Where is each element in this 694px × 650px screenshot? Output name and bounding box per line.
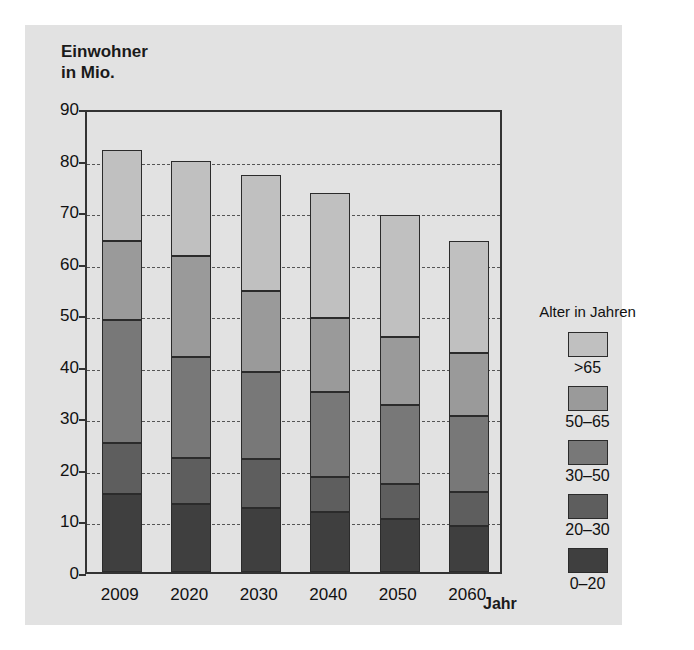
bar-segment-0-20[interactable] xyxy=(449,526,489,572)
bar-segment-0-20[interactable] xyxy=(380,519,420,572)
bar-2009[interactable] xyxy=(102,108,142,572)
legend-item[interactable]: 0–20 xyxy=(530,548,645,593)
y-tick-mark xyxy=(79,213,86,215)
bar-2050[interactable] xyxy=(380,108,420,572)
legend-item[interactable]: 30–50 xyxy=(530,440,645,485)
legend-swatch xyxy=(568,440,608,465)
legend-item[interactable]: 20–30 xyxy=(530,494,645,539)
gridline xyxy=(87,473,500,474)
gridline xyxy=(87,421,500,422)
legend-item[interactable]: 50–65 xyxy=(530,386,645,431)
bar-segment-50-65[interactable] xyxy=(380,337,420,406)
gridline xyxy=(87,524,500,525)
gridline xyxy=(87,267,500,268)
bar-segment-0-20[interactable] xyxy=(241,508,281,572)
x-tick-label: 2009 xyxy=(85,585,155,605)
legend-label: 30–50 xyxy=(530,467,645,485)
y-tick-label: 60 xyxy=(33,255,79,275)
bar-segment--65[interactable] xyxy=(102,150,142,241)
y-tick-mark xyxy=(79,419,86,421)
bar-segment--65[interactable] xyxy=(380,215,420,337)
bar-segment-50-65[interactable] xyxy=(449,353,489,416)
y-tick-mark xyxy=(79,368,86,370)
bar-segment-20-30[interactable] xyxy=(102,443,142,494)
bar-2040[interactable] xyxy=(310,108,350,572)
bar-segment-30-50[interactable] xyxy=(449,416,489,492)
y-tick-label: 0 xyxy=(33,564,79,584)
bar-segment-0-20[interactable] xyxy=(171,504,211,572)
bar-segment--65[interactable] xyxy=(310,193,350,318)
bar-segment-30-50[interactable] xyxy=(241,372,281,459)
y-tick-label: 40 xyxy=(33,358,79,378)
y-tick-mark xyxy=(79,110,86,112)
legend-swatch xyxy=(568,332,608,357)
y-tick-mark xyxy=(79,471,86,473)
bar-segment--65[interactable] xyxy=(449,241,489,353)
gridline xyxy=(87,370,500,371)
y-tick-label: 70 xyxy=(33,203,79,223)
bar-segment-20-30[interactable] xyxy=(380,484,420,520)
legend-item[interactable]: >65 xyxy=(530,332,645,377)
y-axis-title: Einwohner in Mio. xyxy=(61,41,148,83)
bar-segment-30-50[interactable] xyxy=(380,405,420,483)
x-tick-label: 2050 xyxy=(363,585,433,605)
y-tick-mark xyxy=(79,162,86,164)
y-tick-mark xyxy=(79,316,86,318)
bar-segment-50-65[interactable] xyxy=(310,318,350,392)
y-tick-label: 20 xyxy=(33,461,79,481)
y-tick-label: 30 xyxy=(33,409,79,429)
bar-segment-0-20[interactable] xyxy=(310,512,350,572)
bar-2020[interactable] xyxy=(171,108,211,572)
gridline xyxy=(87,318,500,319)
legend-label: 50–65 xyxy=(530,413,645,431)
bar-segment-50-65[interactable] xyxy=(171,256,211,356)
bar-segment-30-50[interactable] xyxy=(102,320,142,443)
bar-segment-50-65[interactable] xyxy=(241,291,281,372)
legend-swatch xyxy=(568,548,608,573)
x-tick-label: 2030 xyxy=(224,585,294,605)
bar-segment-30-50[interactable] xyxy=(310,392,350,477)
bar-segment-50-65[interactable] xyxy=(102,241,142,320)
gridline xyxy=(87,164,500,165)
y-tick-label: 10 xyxy=(33,512,79,532)
y-tick-label: 90 xyxy=(33,100,79,120)
legend-label: 0–20 xyxy=(530,575,645,593)
bar-segment--65[interactable] xyxy=(241,175,281,291)
bar-segment-30-50[interactable] xyxy=(171,357,211,459)
bar-segment-20-30[interactable] xyxy=(310,477,350,512)
legend-items: >6550–6530–5020–300–20 xyxy=(530,332,645,593)
x-tick-label: 2020 xyxy=(154,585,224,605)
plot-area xyxy=(85,110,502,574)
x-tick-label: 2040 xyxy=(293,585,363,605)
y-tick-label: 50 xyxy=(33,306,79,326)
bar-2060[interactable] xyxy=(449,108,489,572)
bar-segment-20-30[interactable] xyxy=(171,458,211,504)
bar-segment-20-30[interactable] xyxy=(241,459,281,508)
legend: Alter in Jahren >6550–6530–5020–300–20 xyxy=(530,303,645,602)
y-tick-mark xyxy=(79,522,86,524)
y-tick-mark xyxy=(79,265,86,267)
bar-segment-0-20[interactable] xyxy=(102,494,142,572)
legend-label: >65 xyxy=(530,359,645,377)
bar-2030[interactable] xyxy=(241,108,281,572)
bar-segment-20-30[interactable] xyxy=(449,492,489,526)
bar-segment--65[interactable] xyxy=(171,161,211,257)
legend-title: Alter in Jahren xyxy=(530,303,645,320)
gridline xyxy=(87,215,500,216)
legend-label: 20–30 xyxy=(530,521,645,539)
legend-swatch xyxy=(568,386,608,411)
legend-swatch xyxy=(568,494,608,519)
x-axis-title: Jahr xyxy=(483,595,517,613)
y-tick-mark xyxy=(79,574,86,576)
chart-panel: Einwohner in Mio. 0102030405060708090 20… xyxy=(25,25,622,625)
y-tick-label: 80 xyxy=(33,152,79,172)
